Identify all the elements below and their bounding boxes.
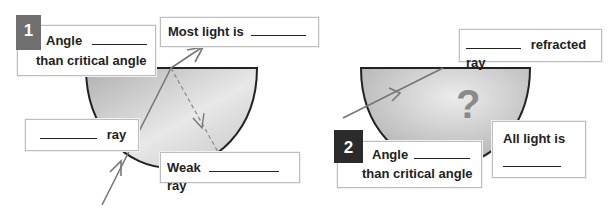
answer-blank[interactable] xyxy=(466,36,521,49)
step-badge-2: 2 xyxy=(334,130,363,163)
incident-ray-box: ray xyxy=(25,119,139,151)
weak-ray-box: Weak ray xyxy=(160,152,300,183)
question-mark: ? xyxy=(456,82,480,126)
answer-blank[interactable] xyxy=(92,32,147,45)
answer-blank[interactable] xyxy=(503,154,561,167)
arrowhead-icon xyxy=(187,47,203,62)
all-light-box: All light is xyxy=(492,121,586,178)
weak-label: Weak xyxy=(167,160,201,175)
answer-blank[interactable] xyxy=(251,23,306,36)
answer-blank[interactable] xyxy=(414,146,470,159)
step-badge-1: 1 xyxy=(16,15,41,50)
angle-subtext: than critical angle xyxy=(362,165,473,183)
angle-subtext: than critical angle xyxy=(36,52,147,70)
ray-label: ray xyxy=(167,178,187,193)
ray-label: ray xyxy=(107,127,127,142)
angle-label: Angle xyxy=(46,33,82,48)
all-light-label: All light is xyxy=(503,130,565,148)
arrowhead-icon xyxy=(110,161,121,176)
answer-blank[interactable] xyxy=(209,159,279,172)
most-light-label: Most light is xyxy=(168,24,244,39)
answer-blank[interactable] xyxy=(40,126,97,139)
refracted-ray-box: refracted ray xyxy=(459,29,602,62)
angle-label: Angle xyxy=(372,147,408,162)
most-light-box: Most light is xyxy=(160,17,319,47)
